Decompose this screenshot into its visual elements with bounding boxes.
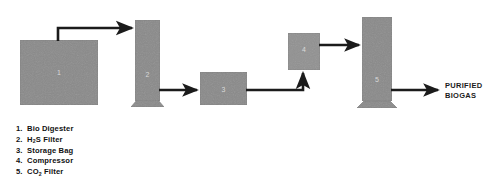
legend-number-1: 1. (16, 124, 27, 135)
legend-item-compressor: 4.Compressor (16, 156, 74, 167)
block-1-bio-digester: 1 (20, 40, 98, 105)
legend-label-4: Compressor (27, 156, 73, 165)
block-1-number: 1 (57, 69, 61, 76)
legend: 1.Bio Digester 2.H2S Filter 3.Storage Ba… (16, 124, 74, 178)
legend-number-5: 5. (16, 167, 27, 178)
legend-number-2: 2. (16, 135, 27, 146)
legend-number-4: 4. (16, 156, 27, 167)
connector-storage-bag-to-compressor (246, 73, 303, 90)
block-3-storage-bag: 3 (200, 72, 247, 105)
legend-item-co2-filter: 5.CO2 Filter (16, 167, 74, 178)
block-2-number: 2 (146, 71, 150, 78)
output-label-purified-biogas: PURIFIED BIOGAS (445, 81, 483, 100)
legend-label-5-pre: CO (27, 167, 39, 176)
block-4-compressor: 4 (288, 33, 320, 70)
legend-label-5-sub: 2 (39, 171, 42, 177)
legend-item-bio-digester: 1.Bio Digester (16, 124, 74, 135)
output-label-line1: PURIFIED (445, 81, 483, 90)
output-label-line2: BIOGAS (445, 91, 476, 100)
legend-item-h2s-filter: 2.H2S Filter (16, 135, 74, 146)
legend-label-2-pre: H (27, 135, 33, 144)
legend-label-2-post: S Filter (36, 135, 63, 144)
process-flow-diagram: 1 2 3 4 5 (0, 0, 498, 187)
legend-number-3: 3. (16, 146, 27, 157)
block-5-number: 5 (375, 76, 379, 83)
block-5-co2-filter: 5 (357, 17, 397, 108)
block-3-number: 3 (222, 86, 226, 93)
legend-label-1: Bio Digester (27, 124, 74, 133)
legend-item-storage-bag: 3.Storage Bag (16, 146, 74, 157)
flow-diagram-canvas: 1 2 3 4 5 (0, 0, 498, 187)
legend-label-2-sub: 2 (33, 138, 36, 144)
block-2-h2s-filter: 2 (131, 20, 164, 107)
connector-digester-to-h2s-filter (58, 28, 132, 41)
legend-label-3: Storage Bag (27, 146, 73, 155)
legend-label-5-post: Filter (42, 167, 64, 176)
block-4-number: 4 (302, 46, 306, 53)
